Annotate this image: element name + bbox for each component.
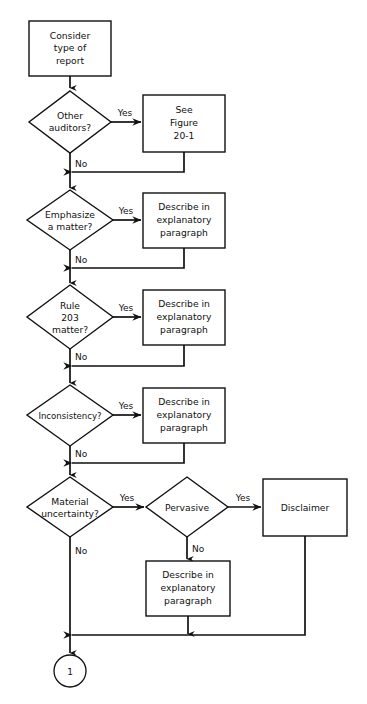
node-connector-1[interactable]: 1 [54, 655, 86, 687]
start-box-line-3: report [56, 55, 84, 66]
describe-1-line-2: explanatory [157, 214, 212, 225]
node-other-auditors[interactable]: Other auditors? [29, 91, 111, 153]
edge-label-inconsistency-no: No [75, 449, 88, 459]
emphasize-line-1: Emphasize [45, 209, 95, 220]
see-figure-line-3: 20-1 [174, 130, 195, 141]
material-uncertainty-line-2: uncertainty? [41, 508, 99, 519]
other-auditors-line-2: auditors? [49, 122, 92, 133]
pervasive-label: Pervasive [165, 502, 209, 513]
edge-label-other-auditors-no: No [75, 159, 88, 169]
edge-label-inconsistency-yes: Yes [118, 401, 134, 411]
describe-4-line-1: Describe in [162, 569, 214, 580]
disclaimer-label: Disclaimer [281, 502, 330, 513]
rule203-line-3: matter? [52, 324, 88, 335]
flowchart-canvas: Consider type of report Other auditors? … [0, 0, 367, 704]
edge-label-rule203-yes: Yes [118, 303, 134, 313]
edge-label-emphasize-yes: Yes [118, 206, 134, 216]
start-box-line-2: type of [54, 42, 87, 53]
edge-describe-1-return [72, 248, 184, 268]
edge-describe-3-return [72, 443, 184, 463]
node-see-figure[interactable]: See Figure 20-1 [143, 95, 225, 152]
see-figure-line-1: See [175, 104, 192, 115]
rule203-line-2: 203 [61, 312, 79, 323]
start-box-line-1: Consider [50, 30, 91, 41]
node-consider-type-of-report[interactable]: Consider type of report [29, 21, 111, 76]
edge-label-rule203-no: No [75, 352, 88, 362]
node-describe-paragraph-1[interactable]: Describe in explanatory paragraph [143, 193, 225, 248]
rule203-line-1: Rule [60, 300, 80, 311]
node-describe-paragraph-4[interactable]: Describe in explanatory paragraph [146, 561, 230, 616]
node-rule-203-matter[interactable]: Rule 203 matter? [27, 285, 113, 349]
inconsistency-line-1: Inconsistency? [38, 411, 101, 421]
node-pervasive[interactable]: Pervasive [146, 477, 228, 537]
edge-describe-2-return [72, 345, 184, 366]
describe-1-line-1: Describe in [158, 201, 210, 212]
edge-label-emphasize-no: No [75, 255, 88, 265]
edge-label-other-auditors-yes: Yes [117, 108, 133, 118]
node-describe-paragraph-2[interactable]: Describe in explanatory paragraph [143, 290, 225, 345]
other-auditors-line-1: Other [57, 110, 83, 121]
emphasize-line-2: a matter? [48, 221, 93, 232]
edge-label-material-yes: Yes [119, 493, 135, 503]
see-figure-line-2: Figure [170, 117, 198, 128]
edge-see-figure-return [72, 152, 184, 172]
connector-label: 1 [67, 667, 73, 677]
node-emphasize-a-matter[interactable]: Emphasize a matter? [27, 190, 113, 250]
describe-4-line-3: paragraph [164, 595, 212, 606]
flowchart-svg: Consider type of report Other auditors? … [0, 0, 367, 704]
edge-label-pervasive-yes: Yes [235, 493, 251, 503]
material-uncertainty-line-1: Material [51, 496, 88, 507]
describe-2-line-3: paragraph [160, 324, 208, 335]
describe-2-line-2: explanatory [157, 311, 212, 322]
node-disclaimer[interactable]: Disclaimer [263, 479, 347, 536]
describe-2-line-1: Describe in [158, 298, 210, 309]
edge-label-pervasive-no: No [192, 544, 205, 554]
describe-3-line-2: explanatory [157, 409, 212, 420]
describe-4-line-2: explanatory [161, 582, 216, 593]
node-describe-paragraph-3[interactable]: Describe in explanatory paragraph [143, 388, 225, 443]
describe-3-line-3: paragraph [160, 422, 208, 433]
node-inconsistency[interactable]: Inconsistency? [27, 385, 113, 446]
describe-1-line-3: paragraph [160, 227, 208, 238]
edge-label-material-no: No [75, 546, 88, 556]
node-material-uncertainty[interactable]: Material uncertainty? [27, 477, 113, 537]
describe-3-line-1: Describe in [158, 396, 210, 407]
